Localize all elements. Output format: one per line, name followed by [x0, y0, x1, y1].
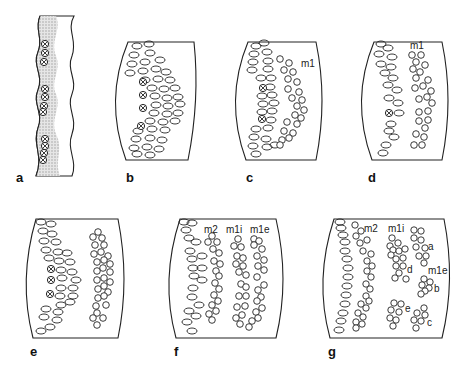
- zone-label-d: d: [407, 264, 413, 275]
- zone-label-m1e: m1e: [428, 265, 448, 276]
- panel-label-b: b: [126, 170, 134, 185]
- panel-c: m1: [235, 40, 322, 160]
- zone-label-c: c: [427, 317, 432, 328]
- panel-label-e: e: [30, 344, 37, 359]
- panel-f: m2 m1i m1e: [169, 219, 283, 338]
- panel-g: m2 m1i a m1e b c d e: [323, 219, 450, 338]
- panel-label-a: a: [16, 170, 24, 185]
- zone-label-b: b: [434, 283, 440, 294]
- zone-label-m1i: m1i: [226, 224, 242, 235]
- panel-label-g: g: [328, 344, 336, 359]
- zone-label-m1i: m1i: [388, 223, 404, 234]
- panel-d: m1: [361, 40, 448, 160]
- zone-label-m1: m1: [301, 58, 315, 69]
- figure-canvas: a b: [0, 0, 462, 370]
- panel-label-d: d: [368, 170, 376, 185]
- zone-label-a: a: [428, 241, 434, 252]
- zone-label-e: e: [405, 303, 411, 314]
- panel-label-f: f: [174, 344, 179, 359]
- zone-label-m2: m2: [204, 224, 218, 235]
- panel-a: [36, 16, 74, 176]
- zone-label-m1e: m1e: [250, 224, 270, 235]
- zone-label-m2: m2: [364, 223, 378, 234]
- panel-b: [115, 41, 196, 160]
- panel-label-c: c: [246, 170, 253, 185]
- panel-e: [26, 219, 124, 338]
- zone-label-m1: m1: [410, 40, 424, 51]
